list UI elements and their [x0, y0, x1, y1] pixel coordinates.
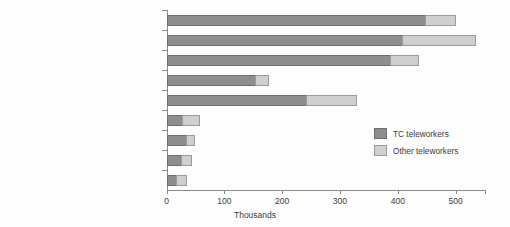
x-axis-line — [167, 190, 486, 191]
bar-segment-tc-teleworkers — [167, 75, 257, 86]
bar-segment-other-teleworkers — [186, 135, 195, 146]
legend-label-tc-teleworkers: TC teleworkers — [393, 129, 449, 139]
y-axis-tick — [162, 50, 167, 51]
x-axis-end-tick — [485, 190, 486, 194]
x-axis-tick — [398, 190, 399, 194]
bar-segment-other-teleworkers — [425, 15, 456, 26]
legend-swatch-tc-teleworkers — [374, 128, 387, 139]
x-axis-title: Thousands — [0, 210, 510, 220]
bar-segment-other-teleworkers — [176, 175, 187, 186]
bar-segment-other-teleworkers — [306, 95, 357, 106]
x-axis-tick — [456, 190, 457, 194]
x-axis-tick-label: 300 — [333, 196, 347, 206]
bar-segment-tc-teleworkers — [167, 115, 183, 126]
y-axis-tick — [162, 10, 167, 11]
y-axis-tick — [162, 90, 167, 91]
bar-segment-other-teleworkers — [255, 75, 269, 86]
stacked-bar-chart: Managers and senior officialsProfessiona… — [0, 0, 510, 227]
x-axis-tick-label: 0 — [164, 196, 169, 206]
legend-swatch-other-teleworkers — [374, 145, 387, 156]
y-axis-tick — [162, 110, 167, 111]
chart-legend: TC teleworkers Other teleworkers — [374, 126, 458, 160]
x-axis-tick — [224, 190, 225, 194]
legend-label-other-teleworkers: Other teleworkers — [393, 146, 458, 156]
bar-segment-other-teleworkers — [402, 35, 476, 46]
bar-segment-tc-teleworkers — [167, 95, 307, 106]
x-axis-tick — [340, 190, 341, 194]
bar-segment-tc-teleworkers — [167, 35, 403, 46]
bar-segment-tc-teleworkers — [167, 155, 183, 166]
bar-segment-other-teleworkers — [181, 155, 192, 166]
x-axis-tick-label: 100 — [217, 196, 231, 206]
legend-item-tc-teleworkers: TC teleworkers — [374, 126, 458, 141]
y-axis-tick — [162, 30, 167, 31]
x-axis-tick — [282, 190, 283, 194]
y-axis-tick — [162, 70, 167, 71]
x-axis-tick-label: 400 — [391, 196, 405, 206]
x-axis-tick-label: 500 — [448, 196, 462, 206]
bar-segment-tc-teleworkers — [167, 15, 426, 26]
x-axis-tick-label: 200 — [275, 196, 289, 206]
x-axis-tick — [167, 190, 168, 194]
y-axis-tick — [162, 130, 167, 131]
bar-segment-tc-teleworkers — [167, 55, 391, 66]
legend-item-other-teleworkers: Other teleworkers — [374, 143, 458, 158]
bar-segment-other-teleworkers — [390, 55, 419, 66]
bar-segment-tc-teleworkers — [167, 135, 188, 146]
y-axis-tick — [162, 170, 167, 171]
bar-segment-other-teleworkers — [182, 115, 200, 126]
y-axis-tick — [162, 150, 167, 151]
